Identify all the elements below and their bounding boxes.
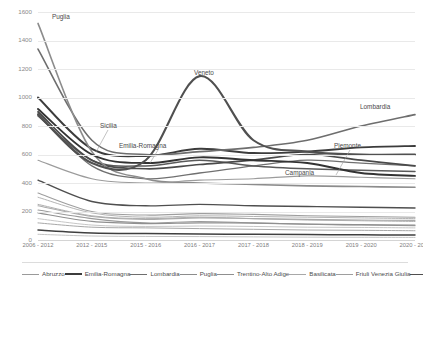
x-axis-tick: 2012 - 2015: [68, 243, 116, 249]
line-chart-svg: [0, 0, 423, 258]
legend-item[interactable]: Marche: [410, 268, 423, 281]
legend-swatch: [22, 274, 39, 275]
gridline: [38, 12, 415, 13]
legend-item[interactable]: Abruzzo: [22, 268, 65, 281]
gridline: [38, 183, 415, 184]
chart-plot-area: 02004006008001000120014001600 2006 - 201…: [0, 0, 423, 258]
legend-label: Basilicata: [309, 271, 335, 277]
legend-label: Abruzzo: [42, 271, 65, 277]
gridline: [38, 126, 415, 127]
chart-screenshot: 02004006008001000120014001600 2006 - 201…: [0, 0, 423, 337]
x-axis-tick: 2016 - 2017: [176, 243, 224, 249]
legend-item[interactable]: Puglia: [180, 268, 217, 281]
legend-item[interactable]: Emilia-Romagna: [65, 268, 131, 281]
x-axis-tick-labels: 2006 - 20122012 - 20152015 - 20162016 - …: [0, 243, 423, 255]
x-axis-tick: 2020 - 2021: [391, 243, 423, 249]
legend-swatch: [336, 274, 353, 275]
legend-item[interactable]: Basilicata: [289, 268, 335, 281]
legend-item[interactable]: Friuli Venezia Giulia: [336, 268, 411, 281]
legend-swatch: [217, 274, 234, 275]
series-annotation-label: Emilia-Romagna: [119, 143, 166, 149]
legend-label: Lombardia: [150, 271, 179, 277]
x-axis-tick: 2019 - 2020: [337, 243, 385, 249]
gridline: [38, 69, 415, 70]
series-annotation-label: Puglia: [52, 14, 70, 20]
series-annotation-label: Campania: [285, 170, 314, 176]
legend-item[interactable]: Trentino-Alto Adige: [217, 268, 289, 281]
legend-label: Friuli Venezia Giulia: [356, 271, 411, 277]
series-annotation-label: Lombardia: [360, 104, 390, 110]
legend-item[interactable]: Lombardia: [130, 268, 179, 281]
x-axis-tick: 2015 - 2016: [122, 243, 170, 249]
gridline: [38, 41, 415, 42]
series-line: [38, 197, 415, 218]
legend-swatch: [289, 274, 306, 275]
gridline: [38, 98, 415, 99]
gridline: [38, 212, 415, 213]
series-annotation-label: Piemonte: [334, 143, 361, 149]
x-axis-tick: 2018 - 2019: [283, 243, 331, 249]
legend-label: Trentino-Alto Adige: [237, 271, 289, 277]
x-axis-tick: 2006 - 2012: [14, 243, 62, 249]
x-axis-line: [38, 240, 415, 241]
series-line: [38, 112, 415, 169]
legend-swatch: [410, 274, 423, 275]
legend-swatch: [180, 274, 197, 276]
legend-swatch: [65, 273, 82, 275]
gridline: [38, 155, 415, 156]
series-annotation-label: Sicilia: [100, 123, 117, 129]
chart-legend: AbruzzoEmilia-RomagnaLombardiaPugliaTren…: [22, 262, 408, 337]
x-axis-tick: 2017 - 2018: [229, 243, 277, 249]
legend-label: Emilia-Romagna: [85, 271, 131, 277]
legend-swatch: [130, 274, 147, 276]
legend-label: Puglia: [200, 271, 217, 277]
series-annotation-label: Veneto: [194, 70, 214, 76]
